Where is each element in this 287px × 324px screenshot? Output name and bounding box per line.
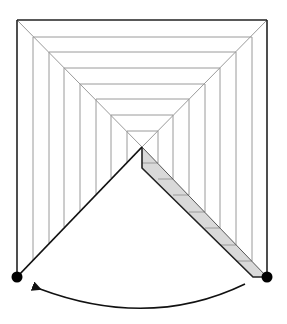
folding-square-diagram bbox=[0, 0, 287, 324]
diagram-canvas bbox=[0, 0, 287, 324]
pivot-dot-left bbox=[12, 272, 23, 283]
pivot-dot-right bbox=[262, 272, 273, 283]
rotation-arrow-icon bbox=[40, 284, 245, 308]
nested-squares bbox=[17, 20, 267, 261]
